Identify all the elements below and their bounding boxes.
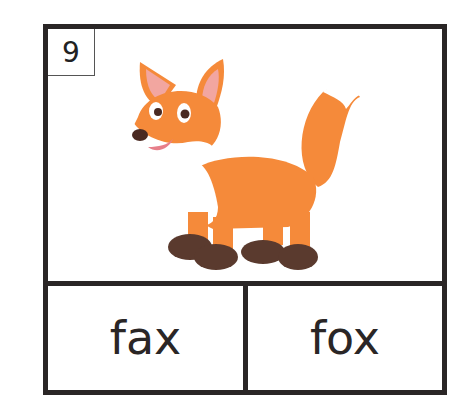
clip-card: 9 fax fox (43, 24, 447, 395)
fox-image (118, 47, 368, 277)
choice-fax[interactable]: fax (48, 286, 243, 390)
choice-fox[interactable]: fox (248, 286, 442, 390)
card-number: 9 (48, 29, 95, 76)
